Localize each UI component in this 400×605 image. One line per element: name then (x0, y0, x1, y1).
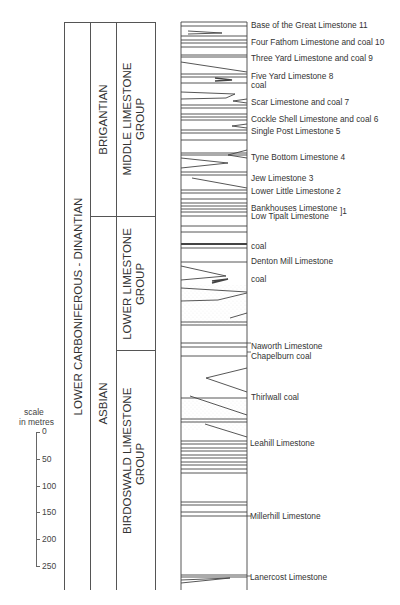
unit-label-scar: Scar Limestone and coal 7 (251, 97, 349, 107)
unit-label-denton-mill: Denton Mill Limestone (251, 256, 333, 266)
unit-label-tyne-bottom: Tyne Bottom Limestone 4 (251, 152, 345, 162)
unit-label-coal-upper: coal (251, 80, 266, 90)
unit-label-chapelburn: Chapelburn coal (251, 351, 311, 361)
unit-label-four-fathom: Four Fathom Limestone and coal 10 (251, 37, 384, 47)
unit-label-three-yard: Three Yard Limestone and coal 9 (251, 53, 373, 63)
unit-label-coal-lower-1: coal (251, 241, 266, 251)
unit-label-jew: Jew Limestone 3 (251, 173, 313, 183)
unit-label-great-limestone: Base of the Great Limestone 11 (251, 20, 368, 30)
unit-label-millerhill: Millerhill Limestone (250, 511, 321, 521)
unit-label-cockle-shell: Cockle Shell Limestone and coal 6 (251, 114, 378, 124)
lithology-column (0, 0, 400, 605)
unit-label-bracket-1: ]1 (340, 206, 347, 216)
unit-label-naworth: Naworth Limestone (251, 341, 322, 351)
unit-label-leahill: Leahill Limestone (250, 438, 315, 448)
unit-label-low-tipalt: Low Tipalt Limestone (251, 211, 329, 221)
unit-label-lanercost: Lanercost Limestone (250, 572, 327, 582)
unit-label-coal-lower-2: coal (251, 274, 266, 284)
unit-label-lower-little: Lower Little Limestone 2 (251, 186, 341, 196)
unit-label-single-post: Single Post Limestone 5 (251, 126, 340, 136)
unit-label-thirlwall: Thirlwall coal (251, 392, 299, 402)
